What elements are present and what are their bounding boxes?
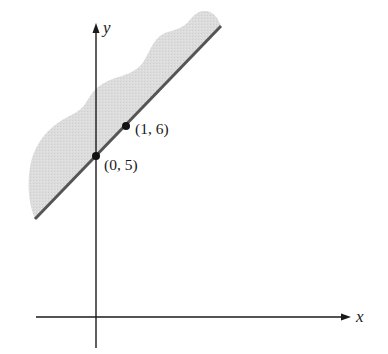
x-axis-label: x (355, 307, 364, 326)
shaded-region (29, 11, 221, 219)
y-axis-arrow-icon (93, 23, 100, 33)
point-0-5 (92, 152, 100, 160)
point-label-0-5: (0, 5) (104, 156, 138, 174)
x-axis-arrow-icon (341, 314, 351, 321)
point-label-1-6: (1, 6) (135, 120, 169, 138)
y-axis-label: y (101, 18, 111, 37)
point-1-6 (122, 122, 130, 130)
graph-canvas: y x (0, 5) (1, 6) (0, 0, 388, 354)
